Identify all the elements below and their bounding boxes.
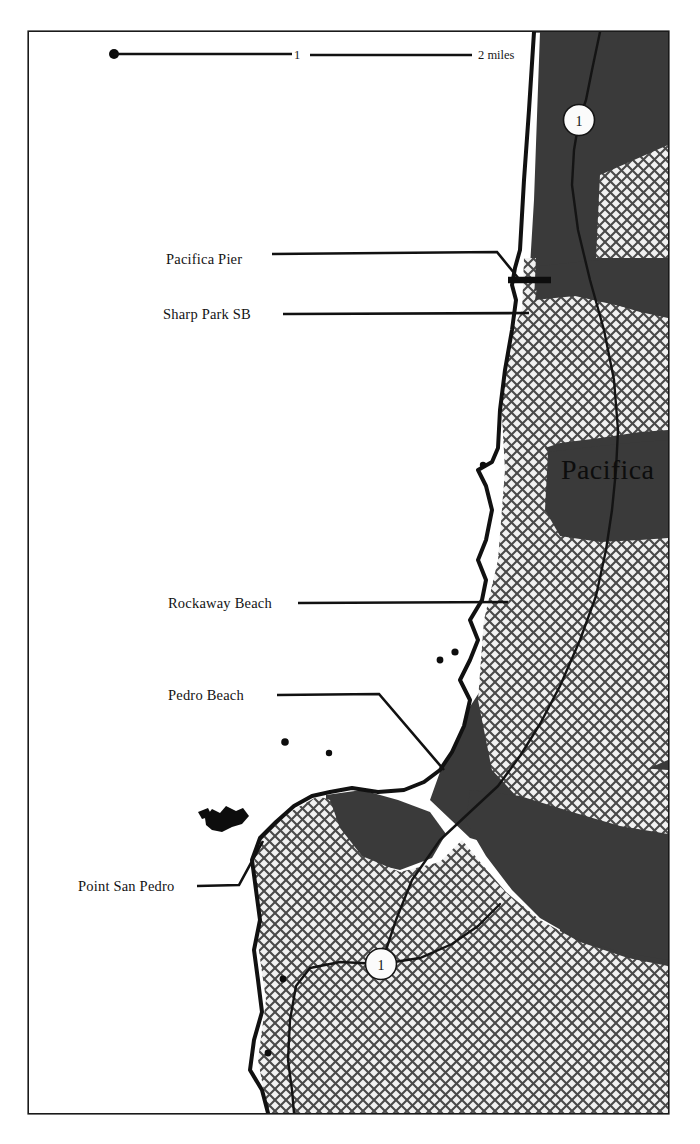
label-point-san-pedro: Point San Pedro	[78, 878, 174, 894]
label-pedro-beach: Pedro Beach	[168, 687, 244, 703]
offshore-rock	[281, 738, 289, 746]
leader-rockaway-beach	[298, 602, 508, 603]
offshore-rock	[280, 976, 287, 983]
offshore-rock	[437, 657, 444, 664]
map-container: 1 2 miles Pacifica Pier Sharp Park SB Ro…	[0, 0, 700, 1144]
highway-shield-south[interactable]: 1	[366, 949, 397, 980]
offshore-rock	[265, 1050, 272, 1057]
scale-tick-1: 1	[294, 48, 300, 62]
scale-tick-2: 2 miles	[478, 48, 515, 62]
offshore-rock	[451, 648, 458, 655]
label-pacifica-pier: Pacifica Pier	[166, 251, 242, 267]
leader-sharp-park-sb	[283, 313, 529, 314]
label-sharp-park-sb: Sharp Park SB	[163, 306, 251, 322]
highway-shield-north[interactable]: 1	[564, 105, 595, 136]
label-rockaway-beach: Rockaway Beach	[168, 595, 272, 611]
offshore-rock	[326, 750, 332, 756]
offshore-rock	[480, 462, 486, 468]
highway-shield-number: 1	[378, 958, 385, 973]
highway-shield-number: 1	[576, 114, 583, 129]
map-graphic: 1 2 miles Pacifica Pier Sharp Park SB Ro…	[0, 0, 700, 1144]
label-pacifica-city: Pacifica	[561, 454, 655, 485]
